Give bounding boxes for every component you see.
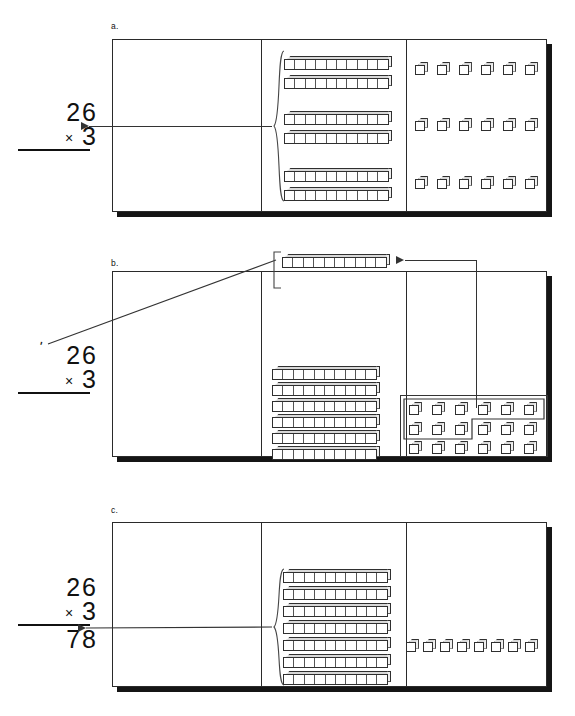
rod-side-face: [388, 75, 392, 86]
cube: [457, 639, 471, 652]
cube: [503, 62, 517, 75]
cube: [524, 441, 538, 454]
rod: [283, 637, 391, 651]
cube-front-face: [437, 121, 447, 131]
cube-front-face: [409, 444, 419, 454]
rod: [272, 430, 380, 444]
cube: [478, 441, 492, 454]
traded-rod: [282, 254, 390, 268]
rod-body: [284, 133, 389, 144]
panel-b-arrowhead: [396, 256, 404, 264]
cube: [455, 402, 469, 415]
cube-front-face: [508, 642, 518, 652]
rod-side-face: [388, 168, 392, 179]
cube: [524, 402, 538, 415]
cube: [503, 118, 517, 131]
cube: [474, 639, 488, 652]
cube: [508, 639, 522, 652]
panel-a: a. 26 ×3: [0, 0, 575, 238]
cube-front-face: [503, 121, 513, 131]
cube-front-face: [525, 65, 535, 75]
cube-front-face: [437, 65, 447, 75]
cube: [524, 422, 538, 435]
rod-side-face: [387, 586, 391, 597]
rod-body: [284, 78, 389, 89]
cube: [478, 422, 492, 435]
rod-side-face: [387, 671, 391, 682]
rod: [284, 187, 392, 201]
rod-body: [284, 114, 389, 125]
rod-body: [283, 623, 388, 634]
panel-b-arrow-vertical: [476, 260, 477, 408]
cube-front-face: [440, 642, 450, 652]
cube-front-face: [415, 121, 425, 131]
rod-body: [284, 171, 389, 182]
rod-side-face: [388, 187, 392, 198]
rod: [283, 620, 391, 634]
cube: [459, 118, 473, 131]
panel-b: b. ' 26 ×3: [0, 238, 575, 480]
cube: [432, 402, 446, 415]
rod-body: [283, 640, 388, 651]
cube: [409, 422, 423, 435]
rod-body: [272, 449, 377, 460]
cube-front-face: [432, 444, 442, 454]
rod-body: [283, 589, 388, 600]
cube: [409, 402, 423, 415]
rod-body: [272, 369, 377, 380]
cube-front-face: [501, 444, 511, 454]
rod: [283, 569, 391, 583]
cube-front-face: [524, 405, 534, 415]
panel-c: c. 26 ×3 78: [0, 480, 575, 716]
cube-front-face: [478, 444, 488, 454]
rod-side-face: [387, 603, 391, 614]
cube-front-face: [455, 405, 465, 415]
cube: [437, 62, 451, 75]
rod: [272, 398, 380, 412]
cube-front-face: [457, 642, 467, 652]
cube-front-face: [481, 121, 491, 131]
rod: [283, 654, 391, 668]
cube: [525, 176, 539, 189]
cube: [491, 639, 505, 652]
cube-front-face: [409, 425, 419, 435]
cube: [406, 639, 420, 652]
cube-front-face: [437, 179, 447, 189]
cube: [459, 62, 473, 75]
rod-side-face: [387, 654, 391, 665]
cube-front-face: [455, 425, 465, 435]
cube: [525, 639, 539, 652]
rod-body: [272, 417, 377, 428]
rod: [272, 446, 380, 460]
cube: [503, 176, 517, 189]
cube: [525, 62, 539, 75]
rod-body: [283, 606, 388, 617]
cube-front-face: [503, 179, 513, 189]
rod-side-face: [387, 569, 391, 580]
rod: [284, 168, 392, 182]
cube-front-face: [459, 121, 469, 131]
cube-front-face: [481, 179, 491, 189]
rod: [283, 586, 391, 600]
rod-body: [282, 257, 387, 268]
panel-a-operator: ×: [65, 130, 73, 146]
cube: [455, 422, 469, 435]
rod-side-face: [376, 446, 380, 457]
rod-side-face: [388, 111, 392, 122]
cube-front-face: [501, 405, 511, 415]
cube: [501, 422, 515, 435]
rod: [284, 75, 392, 89]
cube-front-face: [432, 425, 442, 435]
cube-front-face: [409, 405, 419, 415]
cube-front-face: [474, 642, 484, 652]
cube: [423, 639, 437, 652]
rod-side-face: [387, 637, 391, 648]
cube-front-face: [525, 121, 535, 131]
panel-a-rule: [18, 149, 90, 151]
rod: [283, 671, 391, 685]
cube: [432, 422, 446, 435]
cube: [409, 441, 423, 454]
cube: [478, 402, 492, 415]
cube: [415, 176, 429, 189]
rod: [284, 56, 392, 70]
